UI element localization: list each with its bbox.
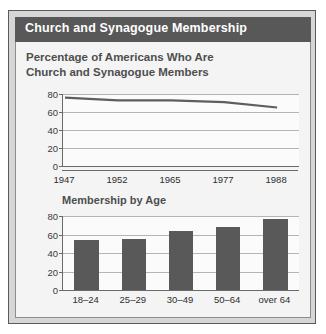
y-axis-tick-label: 60	[47, 229, 58, 240]
y-axis-tick-label: 20	[47, 266, 58, 277]
y-axis-tick-label: 40	[47, 125, 58, 136]
y-axis-tick-label: 60	[47, 107, 58, 118]
y-axis-tick-mark	[59, 94, 63, 95]
chart-figure: Church and Synagogue Membership Percenta…	[8, 10, 316, 324]
gridline	[63, 130, 299, 131]
gridline	[63, 216, 299, 217]
y-axis-tick-mark	[59, 130, 63, 131]
page-title: Church and Synagogue Membership	[25, 21, 247, 35]
subtitle-line-2: Church and Synagogue Members	[26, 65, 286, 80]
y-axis-tick-label: 40	[47, 248, 58, 259]
gridline	[63, 94, 299, 95]
bar	[122, 239, 147, 290]
y-axis-tick-mark	[59, 112, 63, 113]
bar-chart-title: Membership by Age	[62, 194, 166, 206]
chart-subtitle: Percentage of Americans Who Are Church a…	[26, 50, 286, 80]
bar-chart-plot-area: 020406080	[62, 216, 299, 291]
y-axis-tick-mark	[59, 272, 63, 273]
y-axis-tick-label: 0	[53, 285, 58, 296]
y-axis-tick-mark	[59, 253, 63, 254]
bar	[169, 231, 194, 290]
x-axis-tick-label: 50–64	[214, 294, 240, 305]
line-chart-x-axis: 19471952196519771988	[62, 170, 298, 187]
bar-chart-x-axis: 18–2425–2930–4950–64over 64	[62, 292, 298, 308]
y-axis-tick-mark	[59, 148, 63, 149]
x-axis-tick-label: 1965	[159, 174, 180, 185]
y-axis-tick-label: 80	[47, 89, 58, 100]
y-axis-tick-mark	[59, 235, 63, 236]
subtitle-line-1: Percentage of Americans Who Are	[26, 51, 214, 63]
y-axis-tick-mark	[59, 290, 63, 291]
bar	[74, 240, 99, 290]
x-axis-tick-label: 1977	[213, 174, 234, 185]
y-axis-tick-mark	[59, 166, 63, 167]
line-chart: 020406080 19471952196519771988	[26, 90, 302, 195]
x-axis-tick-label: 1988	[266, 174, 287, 185]
x-axis-tick-label: over 64	[259, 294, 291, 305]
figure-title-bar: Church and Synagogue Membership	[15, 17, 311, 42]
bar	[263, 219, 288, 290]
x-axis-tick-label: 18–24	[72, 294, 98, 305]
gridline	[63, 148, 299, 149]
x-axis-tick-label: 1952	[106, 174, 127, 185]
gridline	[63, 112, 299, 113]
y-axis-tick-mark	[59, 216, 63, 217]
x-axis-tick-label: 1947	[53, 174, 74, 185]
chart-panel: Percentage of Americans Who Are Church a…	[15, 42, 311, 318]
x-axis-tick-label: 25–29	[120, 294, 146, 305]
y-axis-tick-label: 80	[47, 211, 58, 222]
y-axis-tick-label: 20	[47, 143, 58, 154]
bar	[216, 227, 241, 290]
line-chart-plot-area: 020406080	[62, 94, 299, 167]
y-axis-tick-label: 0	[53, 161, 58, 172]
bar-chart: 020406080 18–2425–2930–4950–64over 64	[26, 212, 302, 312]
x-axis-tick-label: 30–49	[167, 294, 193, 305]
